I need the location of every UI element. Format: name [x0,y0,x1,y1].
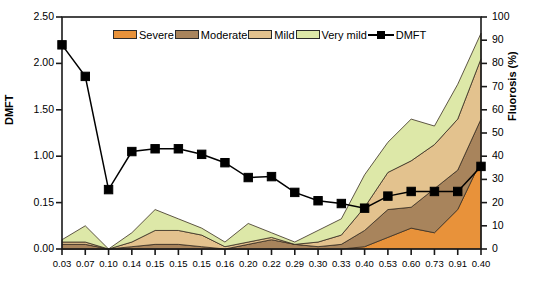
legend-item-severe[interactable]: Severe [113,29,175,41]
y-axis-right-tick-label: 80 [492,56,520,68]
legend-label: Moderate [199,29,248,41]
y-axis-left-tick-label: 0.00 [20,242,54,254]
plot-area [0,0,544,289]
dmft-marker [407,187,415,195]
dmft-marker [454,187,462,195]
chart-legend: SevereModerateMildVery mildDMFT [113,27,427,42]
legend-item-very-mild[interactable]: Very mild [296,29,368,41]
y-axis-right-tick-label: 40 [492,149,520,161]
dmft-marker [267,172,275,180]
legend-label: Mild [272,29,295,41]
y-axis-left-tick-label: 0.15 [20,196,54,208]
dmft-marker [337,199,345,207]
x-axis-tick-label: 0.40 [464,258,498,269]
dmft-marker [151,145,159,153]
y-axis-left-tick-label: 2.00 [20,56,54,68]
dmft-marker [128,147,136,155]
legend-item-moderate[interactable]: Moderate [175,29,248,41]
dmft-marker [81,72,89,80]
legend-label: Very mild [320,29,368,41]
legend-label: Severe [137,29,175,41]
legend-square-icon [377,31,385,39]
dmft-marker [221,158,229,166]
stacked-areas [62,33,481,249]
dmft-marker [314,197,322,205]
dmft-marker [244,173,252,181]
legend-swatch-icon [113,30,137,39]
legend-item-mild[interactable]: Mild [248,29,295,41]
dmft-marker [104,185,112,193]
dmft-marker [384,192,392,200]
y-axis-left-tick-label: 1.00 [20,149,54,161]
chart-figure: DMFT Fluorosis (%) SevereModerateMildVer… [0,0,544,289]
dmft-marker [477,162,485,170]
y-axis-right-tick-label: 90 [492,33,520,45]
y-axis-left-tick-label: 2.50 [20,10,54,22]
dmft-marker [197,150,205,158]
legend-swatch-icon [248,30,272,39]
legend-swatch-icon [175,30,199,39]
dmft-marker [58,41,66,49]
y-axis-right-tick-label: 20 [492,196,520,208]
y-axis-right-tick-label: 60 [492,103,520,115]
y-axis-right-tick-label: 100 [492,10,520,22]
legend-swatch-icon [296,30,320,39]
y-axis-left-tick-label: 1.50 [20,103,54,115]
y-axis-right-tick-label: 30 [492,172,520,184]
legend-label: DMFT [394,29,428,41]
y-axis-right-tick-label: 10 [492,219,520,231]
y-axis-right-tick-label: 50 [492,126,520,138]
dmft-marker [430,187,438,195]
y-axis-right-tick-label: 70 [492,80,520,92]
y-axis-right-tick-label: 0 [492,242,520,254]
dmft-marker [360,204,368,212]
dmft-marker [174,145,182,153]
legend-item-dmft[interactable]: DMFT [368,29,428,41]
legend-line-marker-icon [368,29,394,40]
dmft-marker [291,188,299,196]
